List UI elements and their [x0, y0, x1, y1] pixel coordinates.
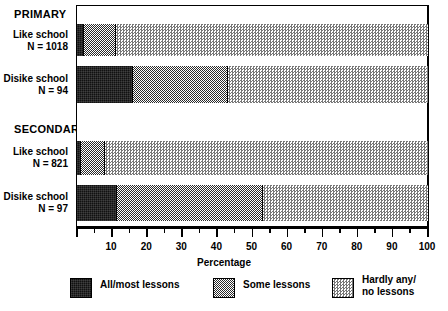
legend-swatch-all-most-lessons: [70, 278, 92, 298]
bar-segment-secondary-dislike-2: [263, 185, 428, 221]
x-tick-label-80: 80: [337, 241, 377, 252]
chart-legend: All/most lessons Some lessons Hardly any…: [0, 276, 448, 310]
x-tick-label-60: 60: [267, 241, 307, 252]
legend-label-line1: Hardly any/: [362, 274, 416, 286]
bar-segment-secondary-dislike-0: [77, 185, 117, 221]
bar-segment-primary-dislike-1: [133, 66, 228, 103]
legend-label-hardly-any-no-lessons: Hardly any/ no lessons: [362, 274, 416, 298]
minor-tick-5: [94, 229, 96, 233]
row-label-primary-like: Like school N = 1018: [0, 29, 68, 53]
x-axis-title: Percentage: [0, 257, 448, 268]
bar-segment-secondary-like-1: [81, 141, 106, 175]
major-tick-60: [287, 229, 289, 237]
minor-tick-85: [374, 229, 376, 233]
bar-segment-secondary-dislike-1: [117, 185, 263, 221]
row-label-line1: Disike school: [0, 73, 68, 85]
minor-tick-55: [269, 229, 271, 233]
minor-tick-45: [234, 229, 236, 233]
row-label-primary-dislike: Disike school N = 94: [0, 73, 68, 97]
legend-label-all-most-lessons: All/most lessons: [100, 279, 179, 291]
minor-tick-35: [199, 229, 201, 233]
bar-segment-primary-dislike-2: [228, 66, 428, 103]
x-tick-label-20: 20: [126, 241, 166, 252]
x-tick-label-40: 40: [196, 241, 236, 252]
major-tick-50: [252, 229, 254, 237]
bar-secondary-like: [77, 141, 428, 175]
x-axis: [76, 227, 429, 241]
legend-label-line1: All/most lessons: [100, 279, 179, 291]
major-tick-90: [392, 229, 394, 237]
bar-segment-primary-like-1: [84, 24, 116, 56]
x-tick-label-30: 30: [161, 241, 201, 252]
minor-tick-25: [164, 229, 166, 233]
minor-tick-95: [409, 229, 411, 233]
group-title-primary: PRIMARY: [14, 8, 66, 20]
major-tick-0: [76, 229, 78, 237]
stacked-bar-chart: PRIMARY Like school N = 1018 Disike scho…: [0, 0, 448, 311]
bar-segment-secondary-like-2: [105, 141, 428, 175]
legend-label-line1: Some lessons: [243, 279, 310, 291]
row-label-line2: N = 97: [0, 203, 68, 215]
x-tick-label-100: 100: [407, 241, 447, 252]
major-tick-30: [181, 229, 183, 237]
bar-segment-primary-dislike-0: [77, 66, 133, 103]
bar-segment-primary-like-0: [77, 24, 84, 56]
x-tick-label-70: 70: [302, 241, 342, 252]
x-tick-label-10: 10: [91, 241, 131, 252]
x-tick-label-50: 50: [232, 241, 272, 252]
plot-area: [76, 5, 429, 227]
minor-tick-65: [304, 229, 306, 233]
x-tick-label-90: 90: [372, 241, 412, 252]
legend-swatch-hardly-any-no-lessons: [332, 278, 354, 298]
bar-primary-dislike: [77, 66, 428, 103]
bar-secondary-dislike: [77, 185, 428, 221]
major-tick-10: [111, 229, 113, 237]
row-label-secondary-dislike: Disike school N = 97: [0, 191, 68, 215]
major-tick-20: [146, 229, 148, 237]
legend-label-some-lessons: Some lessons: [243, 279, 310, 291]
bar-segment-primary-like-2: [116, 24, 428, 56]
major-tick-40: [216, 229, 218, 237]
row-label-line1: Like school: [0, 146, 68, 158]
row-label-line2: N = 821: [0, 158, 68, 170]
minor-tick-75: [339, 229, 341, 233]
row-label-line1: Like school: [0, 29, 68, 41]
row-label-secondary-like: Like school N = 821: [0, 146, 68, 170]
minor-tick-15: [129, 229, 131, 233]
legend-label-line2: no lessons: [362, 286, 416, 298]
major-tick-70: [322, 229, 324, 237]
major-tick-80: [357, 229, 359, 237]
row-label-line2: N = 1018: [0, 41, 68, 53]
row-label-line1: Disike school: [0, 191, 68, 203]
legend-swatch-some-lessons: [213, 278, 235, 298]
bar-primary-like: [77, 24, 428, 56]
row-label-line2: N = 94: [0, 85, 68, 97]
major-tick-100: [427, 229, 429, 237]
